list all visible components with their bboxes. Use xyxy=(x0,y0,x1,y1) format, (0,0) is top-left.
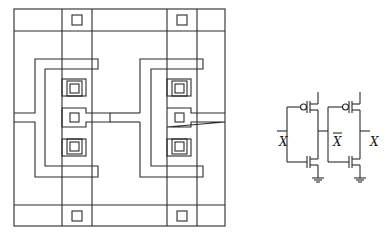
label-input-x: X xyxy=(278,135,288,149)
nmos-transistor-icon xyxy=(328,156,360,168)
diagram-canvas: X X X xyxy=(0,0,388,237)
label-output-x: X xyxy=(369,135,379,149)
ground-icon xyxy=(354,178,366,182)
pad-bottom-left xyxy=(72,211,82,221)
layout-boundary xyxy=(14,9,225,226)
pad-top-left xyxy=(72,15,82,25)
inverter-schematic: X X X xyxy=(277,92,379,182)
nmos-transistor-icon xyxy=(287,156,318,168)
pmos-transistor-icon xyxy=(287,101,318,113)
label-x-bar: X xyxy=(332,135,342,149)
pad-top-right xyxy=(177,15,187,25)
gate-poly-1 xyxy=(14,59,98,177)
contacts-inverter-1 xyxy=(62,79,110,156)
chip-layout xyxy=(14,9,225,226)
ground-icon xyxy=(312,178,324,182)
pmos-transistor-icon xyxy=(328,101,360,113)
pad-bottom-right xyxy=(177,211,187,221)
gate-poly-2 xyxy=(140,59,203,177)
contacts-inverter-2 xyxy=(167,79,225,156)
